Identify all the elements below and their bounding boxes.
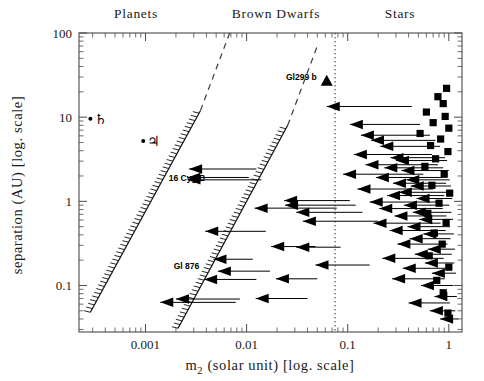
saturn-symbol: ♄ [94,112,107,127]
data-point-square [435,200,442,207]
xlabel-rest: (solar unit) [log. scale] [203,357,354,374]
y-tick-label: 100 [53,26,73,41]
data-point-square [432,155,439,162]
data-point-square [445,264,452,271]
data-point-square [445,125,452,132]
data-point-square [440,100,447,107]
scatter-plot: PlanetsBrown DwarfsStars 0.1110100 0.001… [0,0,484,381]
y-tick-label: 1 [66,194,73,209]
data-point-square [446,190,453,197]
xlabel-m: m [185,357,197,373]
data-point-square [443,85,450,92]
y-axis-title: separation (AU) [log. scale] [9,96,26,275]
data-point-square [437,135,444,142]
data-point-square [417,130,424,137]
data-point-square [423,108,430,115]
data-point-square [427,142,434,149]
data-point-square [442,113,449,120]
x-tick-label: 0.1 [340,337,356,352]
data-point-square [428,182,435,189]
label-gl-876: Gl 876 [174,261,200,271]
data-point-square [434,93,441,100]
x-tick-label: 0.01 [235,337,258,352]
data-point-square [444,148,451,155]
region-label-planets: Planets [114,6,158,21]
x-tick-label: 0.001 [131,337,160,352]
saturn-symbol-dot [88,117,92,121]
data-point-square [431,229,438,236]
y-tick-label: 10 [59,110,72,125]
x-tick-label: 1 [446,337,453,352]
data-point-square [426,252,433,259]
ylabel-text: separation (AU) [log. scale] [9,96,26,275]
data-point-square [444,309,451,316]
data-point-square [421,163,428,170]
data-point-square [441,171,448,178]
label-gl299b: Gl299 b [286,72,317,82]
jupiter-symbol-dot [141,139,145,143]
data-point-square [439,241,446,248]
data-point-square [430,119,437,126]
region-label-brown-dwarfs: Brown Dwarfs [232,6,320,21]
figure-panel: PlanetsBrown DwarfsStars 0.1110100 0.001… [0,0,484,381]
data-point-square [433,277,440,284]
y-tick-label: 0.1 [56,278,72,293]
region-label-stars: Stars [385,6,416,21]
label-16-cyg-b: 16 Cyg B [169,173,205,183]
data-point-square [424,210,431,217]
data-point-square [440,289,447,296]
data-point-square [443,219,450,226]
jupiter-symbol: ♃ [147,134,160,149]
